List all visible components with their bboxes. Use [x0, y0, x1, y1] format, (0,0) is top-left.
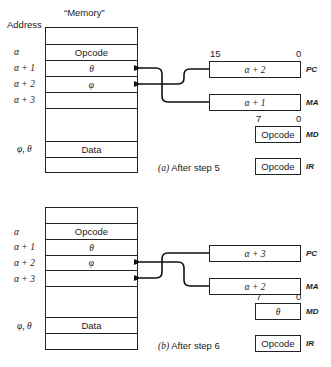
pc-arrow-b	[140, 253, 209, 278]
pc-arrow-a	[140, 69, 209, 84]
pointer-arrows	[0, 0, 331, 367]
ma-arrow-a	[140, 68, 209, 102]
ma-arrow-b	[140, 262, 209, 286]
